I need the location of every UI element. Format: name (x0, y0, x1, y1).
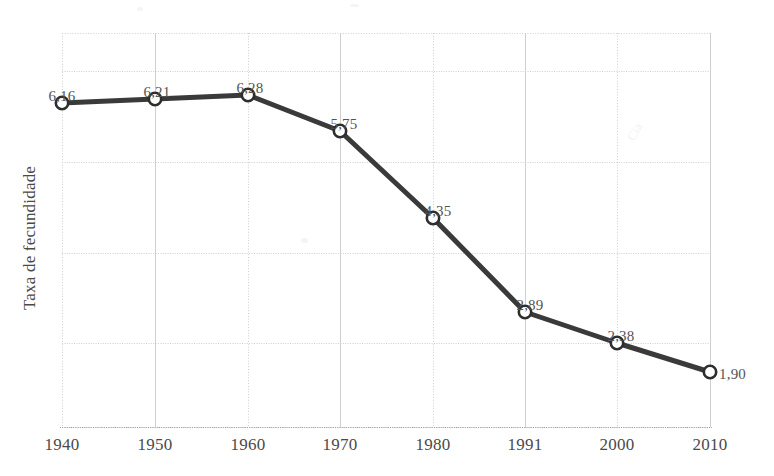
data-value-label: 4,35 (424, 203, 451, 220)
x-axis-tick-label: 1940 (44, 435, 79, 455)
data-point-marker (704, 366, 716, 378)
x-axis-tick-label: 2010 (692, 435, 727, 455)
x-axis-tick-label: 1950 (137, 435, 172, 455)
x-axis-tick-label: 1970 (322, 435, 357, 455)
data-value-label: 1,90 (719, 366, 746, 383)
x-axis-tick-label: 1960 (230, 435, 265, 455)
x-axis-tick-label: 1980 (415, 435, 450, 455)
fertility-rate-line-chart: Taxa de fecundidade Cia 1940195019601970… (0, 0, 774, 476)
plot-canvas (0, 0, 774, 476)
x-axis-tick-label: 1991 (507, 435, 542, 455)
data-value-label: 6,16 (48, 88, 75, 105)
x-axis-tick-label: 2000 (599, 435, 634, 455)
data-value-label: 6,21 (143, 84, 170, 101)
data-value-label: 2,89 (516, 297, 543, 314)
data-value-label: 6,28 (236, 80, 263, 97)
data-value-label: 2,38 (607, 328, 634, 345)
data-value-label: 5,75 (330, 116, 357, 133)
